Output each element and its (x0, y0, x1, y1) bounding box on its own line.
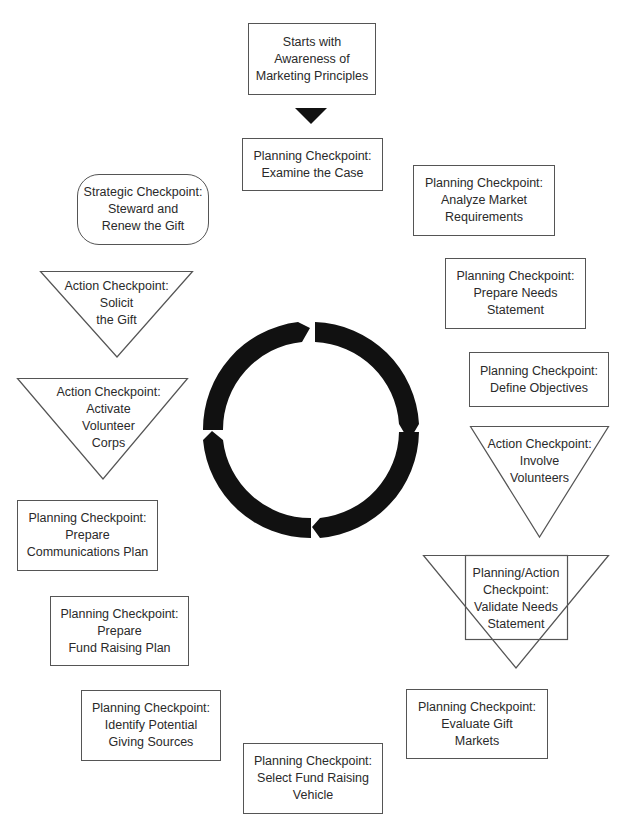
node-label: Select Fund Raising (257, 770, 369, 787)
node-label: Planning Checkpoint: (418, 699, 536, 716)
prepare-needs-box: Planning Checkpoint: Prepare Needs State… (445, 258, 586, 329)
start-line-3: Marketing Principles (256, 68, 369, 85)
node-label: Strategic Checkpoint: (84, 184, 203, 201)
solicit-gift-triangle: Action Checkpoint: Solicit the Gift (40, 271, 193, 358)
node-label: Planning Checkpoint: (456, 268, 574, 285)
node-label: Planning Checkpoint: (253, 148, 371, 165)
select-vehicle-box: Planning Checkpoint: Select Fund Raising… (243, 743, 383, 814)
node-label: Volunteers (470, 470, 609, 487)
node-label: Fund Raising Plan (68, 640, 170, 657)
node-label: Renew the Gift (102, 218, 185, 235)
fund-raising-plan-box: Planning Checkpoint: Prepare Fund Raisin… (50, 596, 189, 666)
activate-volunteers-triangle: Action Checkpoint: Activate Volunteer Co… (17, 378, 188, 480)
node-label: Planning Checkpoint: (92, 700, 210, 717)
node-label: Planning Checkpoint: (28, 510, 146, 527)
identify-sources-box: Planning Checkpoint: Identify Potential … (81, 690, 221, 761)
node-label: Steward and (108, 201, 178, 218)
node-label: Solicit (40, 295, 193, 312)
node-label: Volunteer (29, 418, 188, 435)
node-label: Planning Checkpoint: (425, 175, 543, 192)
node-label: Identify Potential (105, 717, 197, 734)
node-label: Define Objectives (490, 380, 588, 397)
node-label: Planning Checkpoint: (480, 363, 598, 380)
node-label: Corps (29, 435, 188, 452)
validate-needs-shape: Planning/Action Checkpoint: Validate Nee… (423, 555, 609, 669)
node-label: Planning Checkpoint: (60, 606, 178, 623)
ring-segment-4 (203, 322, 310, 430)
ring-segment-1 (315, 322, 419, 441)
examine-case-box: Planning Checkpoint: Examine the Case (242, 138, 383, 191)
define-objectives-box: Planning Checkpoint: Define Objectives (469, 352, 609, 407)
cycle-ring (203, 322, 419, 538)
node-label: Validate Needs (423, 599, 609, 616)
ring-segment-2 (312, 432, 419, 538)
communications-plan-box: Planning Checkpoint: Prepare Communicati… (17, 500, 158, 571)
node-label: Markets (455, 733, 499, 750)
node-label: Action Checkpoint: (29, 384, 188, 401)
start-box: Starts with Awareness of Marketing Princ… (248, 23, 376, 95)
node-label: Checkpoint: (423, 582, 609, 599)
involve-volunteers-triangle: Action Checkpoint: Involve Volunteers (470, 426, 609, 538)
node-label: Statement (487, 302, 544, 319)
node-label: Analyze Market (441, 192, 527, 209)
node-label: Action Checkpoint: (40, 278, 193, 295)
node-label: Involve (470, 453, 609, 470)
node-label: Requirements (445, 209, 523, 226)
node-label: Activate (29, 401, 188, 418)
node-label: Vehicle (293, 787, 333, 804)
node-label: the Gift (40, 312, 193, 329)
node-label: Planning Checkpoint: (254, 753, 372, 770)
node-label: Statement (423, 616, 609, 633)
steward-renew-box: Strategic Checkpoint: Steward and Renew … (77, 174, 209, 245)
node-label: Prepare (97, 623, 141, 640)
node-label: Planning/Action (423, 565, 609, 582)
node-label: Giving Sources (109, 734, 194, 751)
ring-segment-3 (203, 431, 311, 538)
node-label: Prepare Needs (473, 285, 557, 302)
node-label: Evaluate Gift (441, 716, 513, 733)
node-label: Communications Plan (27, 544, 149, 561)
analyze-market-box: Planning Checkpoint: Analyze Market Requ… (413, 165, 555, 236)
node-label: Action Checkpoint: (470, 436, 609, 453)
start-line-2: Awareness of (274, 51, 350, 68)
evaluate-gift-box: Planning Checkpoint: Evaluate Gift Marke… (406, 689, 548, 759)
down-arrow-icon (295, 108, 327, 124)
node-label: Prepare (65, 527, 109, 544)
node-label: Examine the Case (261, 165, 363, 182)
start-line-1: Starts with (283, 34, 341, 51)
